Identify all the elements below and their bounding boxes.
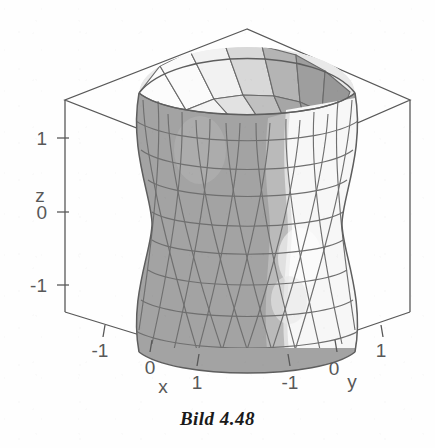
z-axis-label: z (35, 185, 45, 206)
y-tick-0: 0 (329, 358, 340, 379)
x-tick-1: 1 (192, 372, 203, 393)
hyperboloid-plot: 1 0 -1 z -1 0 1 x -1 0 1 y (0, 0, 435, 448)
y-axis-label: y (347, 371, 357, 392)
x-axis-label: x (158, 376, 168, 397)
x-tick-0: 0 (145, 357, 156, 378)
z-tick-neg1: -1 (30, 275, 47, 296)
x-tick-neg1: -1 (92, 340, 109, 361)
z-tick-1: 1 (36, 128, 47, 149)
figure-page: 1 0 -1 z -1 0 1 x -1 0 1 y Bild 4.48 (0, 0, 435, 448)
y-tick-1: 1 (376, 340, 387, 361)
y-tick-neg1: -1 (282, 372, 299, 393)
z-axis-ticks (57, 138, 69, 285)
figure-caption: Bild 4.48 (0, 408, 435, 430)
